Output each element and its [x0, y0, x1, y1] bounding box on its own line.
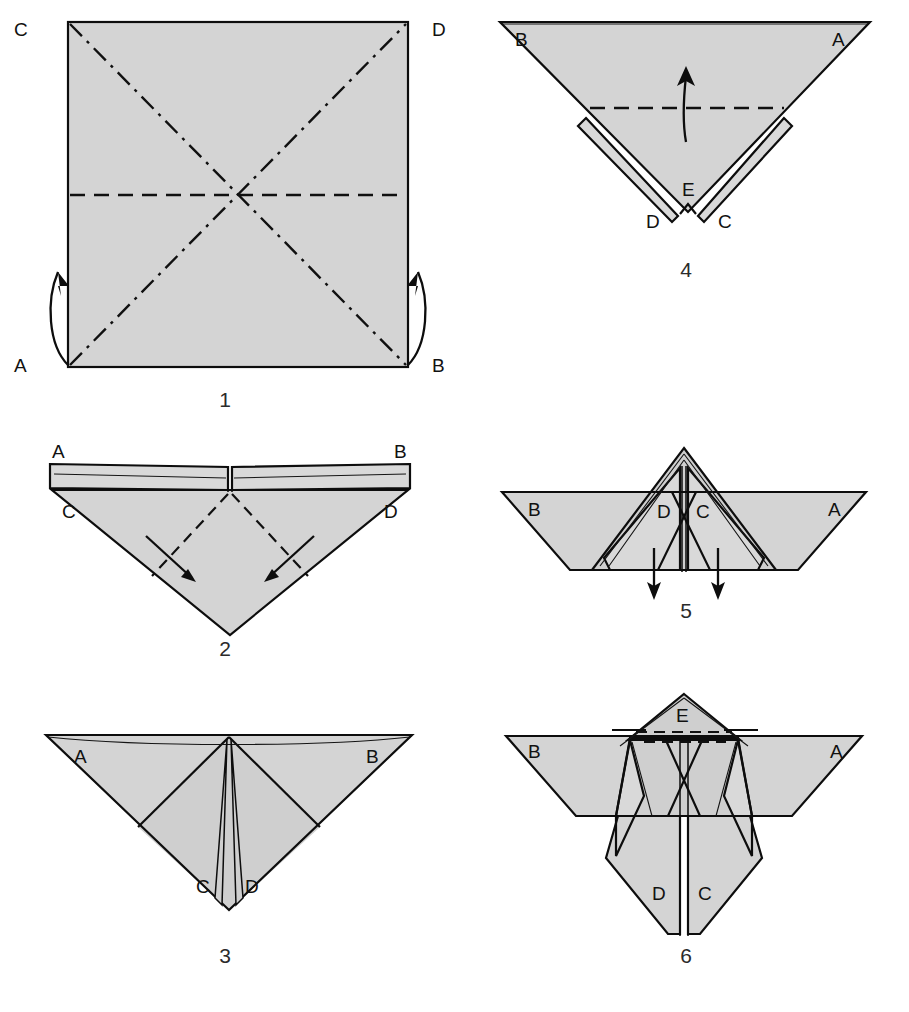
label-a: A	[828, 499, 841, 520]
label-a: A	[14, 355, 27, 376]
paper-triangle-body	[52, 490, 408, 635]
step-number-3: 3	[205, 944, 245, 968]
label-d: D	[657, 501, 671, 522]
figure-step-6: E B A D C	[460, 688, 909, 948]
label-e: E	[676, 705, 689, 726]
figure-step-1: C D A B	[0, 0, 460, 400]
label-a: A	[52, 441, 65, 462]
figure-step-4: B A E D C	[460, 0, 909, 260]
label-d: D	[652, 883, 666, 904]
label-a: A	[74, 746, 87, 767]
label-c: C	[718, 211, 732, 232]
label-c: C	[696, 501, 710, 522]
label-c: C	[698, 883, 712, 904]
label-c: C	[14, 19, 28, 40]
label-b: B	[528, 499, 541, 520]
label-d: D	[384, 501, 398, 522]
figure-step-2: A B C D	[0, 430, 460, 650]
fold-arrow-left	[51, 272, 69, 365]
label-c: C	[196, 876, 210, 897]
label-e: E	[682, 179, 695, 200]
step-number-5: 5	[666, 599, 706, 623]
label-a: A	[830, 741, 843, 762]
label-b: B	[515, 29, 528, 50]
label-d: D	[646, 211, 660, 232]
label-d: D	[432, 19, 446, 40]
figure-step-3: A B C D	[0, 715, 460, 935]
label-b: B	[432, 355, 445, 376]
origami-instruction-sheet: C D A B 1	[0, 0, 909, 1012]
step-number-6: 6	[666, 944, 706, 968]
center-slit	[228, 470, 232, 492]
step-number-1: 1	[205, 388, 245, 412]
label-b: B	[366, 746, 379, 767]
step-number-4: 4	[666, 258, 706, 282]
label-b: B	[528, 741, 541, 762]
label-b: B	[394, 441, 407, 462]
step-number-2: 2	[205, 637, 245, 661]
label-d: D	[245, 876, 259, 897]
fold-arrow-right	[407, 272, 425, 365]
label-a: A	[832, 29, 845, 50]
label-c: C	[62, 501, 76, 522]
